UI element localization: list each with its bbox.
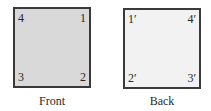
back-caption: Back [123,95,201,107]
back-corner-top-left: 1′ [128,13,137,25]
front-corner-bottom-right: 2 [80,71,86,83]
front-panel: 4 1 3 2 [13,7,91,88]
back-corner-bottom-right: 3′ [187,72,196,84]
back-corner-bottom-left: 2′ [128,72,137,84]
front-corner-bottom-left: 3 [18,71,24,83]
front-corner-top-right: 1 [80,12,86,24]
front-caption: Front [13,95,91,107]
front-corner-top-left: 4 [18,12,24,24]
back-panel: 1′ 4′ 2′ 3′ [123,8,201,89]
back-corner-top-right: 4′ [187,13,196,25]
